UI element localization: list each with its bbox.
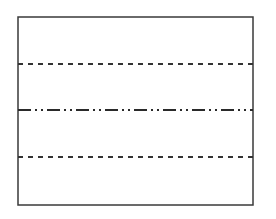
diagram-canvas bbox=[0, 0, 276, 219]
diagram-figure bbox=[0, 0, 276, 219]
